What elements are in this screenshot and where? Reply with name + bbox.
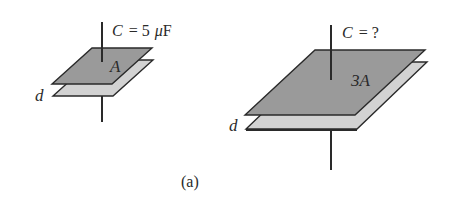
separation-label: d: [229, 116, 238, 135]
cap-value: = 5: [129, 22, 150, 39]
cap-value: = ?: [359, 24, 379, 41]
capacitance-label: C= ?: [342, 24, 379, 41]
figure-caption: (a): [181, 173, 199, 191]
cap-symbol: C: [342, 24, 353, 41]
area-label: 3A: [350, 71, 371, 90]
cap-unit: F: [163, 22, 172, 39]
cap-symbol: C: [112, 22, 123, 39]
cap-unit-prefix: μ: [154, 22, 163, 40]
capacitance-label: C= 5μF: [112, 22, 172, 40]
parallel-plate-capacitor-diagram: A d C= 5μF 3A d C= ? (a): [0, 0, 450, 199]
separation-label: d: [35, 86, 44, 105]
area-label: A: [109, 57, 121, 76]
